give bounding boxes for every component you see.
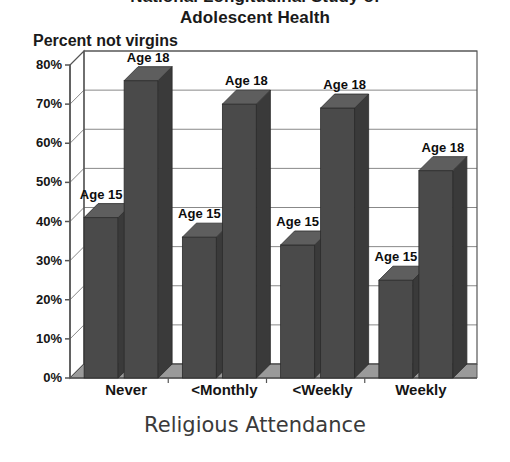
y-tick-0: 0% <box>18 371 62 384</box>
y-tick-80: 80% <box>18 58 62 71</box>
bar-label-lt-weekly-age-18: Age 18 <box>317 78 373 92</box>
bar-label-weekly-age-15: Age 15 <box>368 250 424 264</box>
y-tick-50: 50% <box>18 175 62 188</box>
bar-label-never-age-18: Age 18 <box>120 51 176 65</box>
x-axis-label-lt-monthly: <Monthly <box>175 381 273 398</box>
x-axis-label-never: Never <box>77 381 175 398</box>
x-axis-title: Religious Attendance <box>0 412 510 438</box>
y-tick-10: 10% <box>18 332 62 345</box>
bar-label-lt-monthly-age-18: Age 18 <box>218 74 274 88</box>
bar-label-weekly-age-18: Age 18 <box>415 141 471 155</box>
x-axis-label-lt-weekly: <Weekly <box>274 381 372 398</box>
bar-label-never-age-15: Age 15 <box>73 188 129 202</box>
y-tick-60: 60% <box>18 136 62 149</box>
y-tick-70: 70% <box>18 97 62 110</box>
bar-label-lt-monthly-age-15: Age 15 <box>171 207 227 221</box>
y-tick-40: 40% <box>18 215 62 228</box>
y-tick-30: 30% <box>18 254 62 267</box>
chart-container: National Longitudinal Study of Adolescen… <box>0 0 510 462</box>
x-axis-label-weekly: Weekly <box>372 381 470 398</box>
y-tick-20: 20% <box>18 293 62 306</box>
bar-label-lt-weekly-age-15: Age 15 <box>270 215 326 229</box>
